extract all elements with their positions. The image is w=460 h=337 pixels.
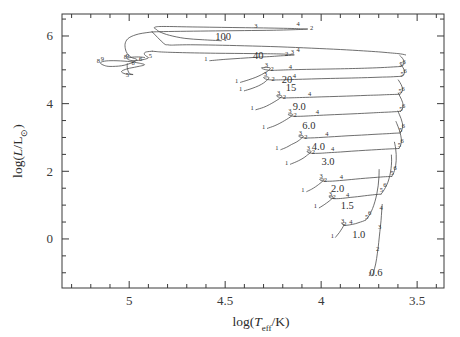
mass-label: 3.0 — [321, 156, 334, 167]
track-point-label: 1 — [204, 55, 207, 62]
track-point-label: 4 — [316, 108, 320, 115]
track-point-label: 4 — [349, 218, 353, 225]
track-point-label: 6 — [401, 85, 405, 92]
track-point-label: 1 — [250, 104, 253, 111]
track-point-label: 2 — [376, 245, 379, 252]
track-point-label: 6 — [402, 102, 406, 109]
y-axis-title: log(L/L⊙) — [10, 124, 29, 178]
track-point-label: 4 — [340, 173, 344, 180]
track-point-label: 4 — [296, 20, 300, 27]
mass-label: 100 — [215, 31, 231, 42]
track-point-label: 6 — [394, 164, 398, 171]
track-point-label: 2 — [310, 24, 313, 31]
track-point-label: 3 — [277, 89, 280, 96]
track-point-label: 1 — [331, 232, 334, 239]
track-point-label: 2 — [283, 93, 286, 100]
track-point-label: 3 — [291, 48, 294, 55]
track-line — [256, 94, 400, 110]
track-point-label: 2 — [343, 220, 346, 227]
track-point-label: 4 — [296, 46, 300, 53]
track-point-label: 8 — [97, 57, 100, 64]
y-tick-label: 6 — [47, 28, 54, 43]
track-line — [152, 51, 294, 60]
track-point-label: 8 — [124, 53, 127, 60]
track-line — [152, 32, 405, 55]
mass-label: 6.0 — [302, 120, 315, 131]
tick-labels: 54.543.56420 — [47, 28, 426, 308]
mass-label: 1.0 — [352, 229, 365, 240]
track-point-label: 1 — [239, 85, 242, 92]
track-point-label: 6 — [403, 67, 407, 74]
x-axis-title: log(Teff/K) — [232, 314, 289, 333]
mass-label: 15 — [286, 82, 297, 93]
track-point-label: 5 — [126, 71, 129, 78]
track-point-label: 1 — [301, 186, 304, 193]
track-point-label: 4 — [308, 90, 312, 97]
x-tick-label: 4.5 — [217, 293, 233, 308]
mass-label: 4.0 — [312, 141, 325, 152]
track-point-label: 2 — [285, 50, 288, 57]
mass-label: 2.0 — [331, 183, 344, 194]
track-point-label: 2 — [333, 193, 336, 200]
track-point-label: 4 — [325, 130, 329, 137]
track-point-label: 3 — [264, 70, 267, 77]
track-point-label: 5 — [149, 52, 152, 59]
mass-label: 40 — [253, 50, 264, 61]
stellar-evolution-plot: 1234569812345698132456132456132456132456… — [0, 0, 460, 337]
track-point-label: 3 — [320, 172, 323, 179]
track-point-label: 6 — [401, 137, 405, 144]
track-point-label: 4 — [331, 145, 335, 152]
y-tick-label: 0 — [47, 231, 54, 246]
track-point-label: 2 — [304, 133, 307, 140]
axis-titles: log(Teff/K)log(L/L⊙) — [10, 124, 290, 333]
track-point-label: 1 — [285, 159, 288, 166]
hr-diagram-figure: 1234569812345698132456132456132456132456… — [0, 0, 460, 337]
track-point-label: 4 — [346, 191, 350, 198]
track-point-label: 3 — [307, 144, 310, 151]
mass-label: 1.5 — [341, 200, 354, 211]
track-point-label: 6 — [383, 181, 387, 188]
track-point-label: 3 — [378, 223, 381, 230]
x-tick-label: 3.5 — [409, 293, 425, 308]
track-point-label: 4 — [289, 63, 293, 70]
track-point-label: 9 — [101, 55, 104, 62]
track-point-label: 4 — [380, 204, 384, 211]
track-line — [244, 76, 401, 91]
track-point-label: 6 — [402, 122, 406, 129]
track-point-label: 6 — [402, 58, 406, 65]
track-point-label: 4 — [293, 72, 297, 79]
track-point-label: 3 — [288, 107, 291, 114]
y-tick-label: 4 — [47, 96, 54, 111]
x-tick-label: 4 — [318, 293, 325, 308]
track-line — [372, 204, 382, 275]
track-point-label: 1 — [262, 123, 265, 130]
mass-label: 0.6 — [369, 267, 382, 278]
track-point-label: 2 — [271, 65, 274, 72]
track-point-label: 1 — [235, 77, 238, 84]
track-point-label: 1 — [275, 144, 278, 151]
mass-label: 9.0 — [293, 101, 306, 112]
track-point-label: 1 — [314, 202, 317, 209]
track-point-label: 6 — [139, 55, 143, 62]
track-point-label: 2 — [272, 75, 275, 82]
x-tick-label: 5 — [126, 293, 133, 308]
track-point-label: 2 — [324, 176, 327, 183]
track-point-label: 3 — [254, 22, 257, 29]
y-tick-label: 2 — [47, 164, 54, 179]
track-point-label: 3 — [265, 61, 268, 68]
